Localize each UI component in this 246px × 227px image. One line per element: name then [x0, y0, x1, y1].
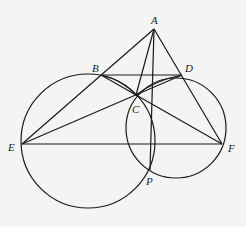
diagram-canvas: A B D C E F P [0, 0, 246, 227]
segment-af [154, 29, 222, 144]
label-p: P [145, 175, 153, 187]
segment-ed [22, 75, 182, 144]
label-d: D [184, 62, 193, 74]
geometry-diagram: A B D C E F P [0, 0, 246, 227]
segment-ap [150, 29, 154, 170]
label-a: A [150, 14, 158, 26]
label-e: E [7, 141, 15, 153]
segment-fb [101, 75, 222, 144]
segment-ae [22, 29, 154, 144]
label-c: C [132, 103, 140, 115]
label-b: B [92, 62, 99, 74]
label-f: F [227, 142, 235, 154]
